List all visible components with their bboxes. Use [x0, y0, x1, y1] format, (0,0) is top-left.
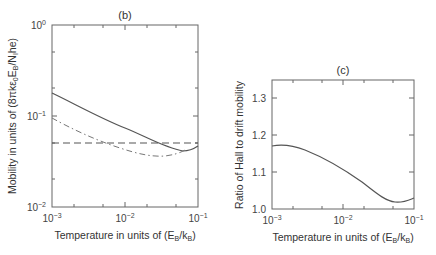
chart-c-title: (c)	[337, 64, 350, 76]
chart-c: (c) 1.0 1.1 1.2 1.3	[233, 64, 424, 244]
chart-b-ytick-0: 100	[31, 19, 46, 31]
chart-b-y-ticks	[52, 52, 198, 179]
chart-c-ytick-1-3: 1.3	[252, 93, 266, 104]
chart-c-xlabel: Temperature in units of (EB/kB)	[272, 231, 413, 244]
chart-c-ytick-1-1: 1.1	[252, 167, 266, 178]
chart-b-ytick-m2: 10−2	[27, 201, 46, 213]
chart-b-x-ticks	[74, 25, 176, 207]
chart-c-xtick-m2: 10−2	[333, 214, 352, 226]
chart-b-xtick-m2: 10−2	[115, 212, 134, 224]
chart-c-frame	[272, 80, 414, 209]
chart-c-ytick-1-0: 1.0	[252, 204, 266, 215]
chart-b-series-dashdot	[52, 118, 185, 156]
chart-b: (b)	[6, 9, 208, 242]
chart-c-series-ratio	[272, 145, 414, 202]
chart-b-ytick-m1: 10−1	[27, 110, 46, 122]
chart-b-title: (b)	[118, 9, 131, 21]
chart-c-xtick-m1: 10−1	[404, 214, 423, 226]
chart-c-ylabel: Ratio of Hall to drift mobility	[233, 80, 245, 209]
chart-c-xtick-m3: 10−3	[262, 214, 281, 226]
chart-b-xlabel: Temperature in units of (EB/kB)	[54, 229, 195, 242]
chart-b-series-solid	[52, 93, 198, 151]
chart-b-ylabel: Mobility in units of (8πkε0EB/NIhe)	[6, 38, 19, 194]
chart-c-y-ticks	[272, 98, 414, 172]
chart-b-xtick-m3: 10−3	[42, 212, 61, 224]
chart-c-ytick-1-2: 1.2	[252, 130, 266, 141]
chart-c-x-ticks	[293, 80, 393, 209]
chart-b-xtick-m1: 10−1	[188, 212, 207, 224]
chart-b-frame	[52, 25, 198, 207]
